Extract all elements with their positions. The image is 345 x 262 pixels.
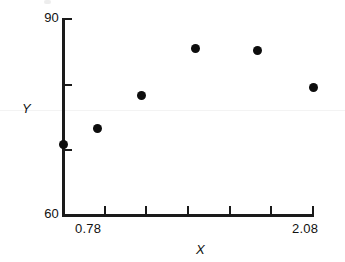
data-point bbox=[253, 46, 262, 55]
data-point bbox=[93, 124, 102, 133]
y-axis-tick bbox=[63, 18, 72, 20]
x-axis-tick bbox=[104, 206, 106, 215]
x-axis-tick bbox=[62, 206, 64, 215]
scan-artifact-top bbox=[44, 0, 51, 4]
scan-artifact-band bbox=[0, 110, 345, 111]
x-axis-max-label: 2.08 bbox=[292, 221, 318, 236]
data-point bbox=[137, 91, 146, 100]
data-point bbox=[309, 83, 318, 92]
scatter-plot-figure: 90 60 0.78 2.08 Y X bbox=[0, 0, 345, 262]
y-axis-line bbox=[62, 18, 65, 217]
x-axis-tick bbox=[229, 206, 231, 215]
x-axis-min-label: 0.78 bbox=[75, 221, 101, 236]
x-axis-tick bbox=[145, 206, 147, 215]
y-axis-tick bbox=[63, 149, 72, 151]
x-axis-tick bbox=[187, 206, 189, 215]
x-axis-title: X bbox=[196, 242, 205, 257]
y-axis-title: Y bbox=[22, 101, 31, 116]
y-axis-tick bbox=[63, 215, 72, 217]
data-point bbox=[59, 140, 68, 149]
y-axis-tick bbox=[63, 84, 72, 86]
data-point bbox=[191, 44, 200, 53]
y-axis-min-label: 60 bbox=[44, 206, 59, 221]
x-axis-tick bbox=[270, 206, 272, 215]
y-axis-max-label: 90 bbox=[44, 10, 59, 25]
x-axis-tick bbox=[312, 206, 314, 215]
